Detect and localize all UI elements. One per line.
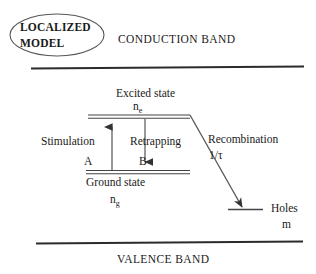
valence-band-label: VALENCE BAND xyxy=(117,254,209,266)
excited-state-symbol-subscript: e xyxy=(139,106,143,115)
retrapping-label: Retrapping xyxy=(130,136,181,148)
excited-state-level xyxy=(88,115,190,118)
holes-label: Holes xyxy=(271,203,298,215)
ground-state-level xyxy=(86,171,190,174)
conduction-band-line xyxy=(31,67,304,69)
retrapping-rate-label: B xyxy=(139,156,147,168)
stimulation-label: Stimulation xyxy=(41,136,95,148)
conduction-band-label: CONDUCTION BAND xyxy=(118,34,236,46)
stimulation-rate-label: A xyxy=(84,156,92,168)
recombination-rate-label: 1/τ xyxy=(209,150,223,162)
holes-symbol-label: m xyxy=(282,219,291,231)
excited-state-symbol: ne xyxy=(133,101,142,115)
ground-state-symbol-subscript: g xyxy=(116,199,120,208)
localized-model-band-diagram: LOCALIZED MODEL CONDUCTION BAND VALENCE … xyxy=(0,0,316,274)
valence-band-line xyxy=(36,242,303,244)
excited-state-label: Excited state xyxy=(116,88,175,100)
ground-state-symbol: ng xyxy=(110,194,120,208)
badge-line-2: MODEL xyxy=(20,38,64,50)
recombination-label: Recombination xyxy=(208,134,278,146)
ground-state-label: Ground state xyxy=(86,177,145,189)
badge-line-1: LOCALIZED xyxy=(20,22,91,34)
